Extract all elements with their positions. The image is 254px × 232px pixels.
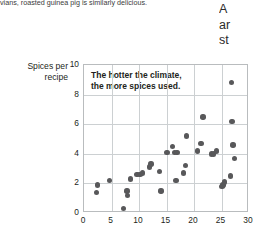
data-point <box>164 150 169 155</box>
gridline-horizontal <box>84 95 247 96</box>
data-point <box>200 114 205 119</box>
data-point <box>198 141 203 146</box>
y-axis-tick-label: 4 <box>57 148 79 158</box>
gridline-vertical <box>139 65 140 211</box>
plot-area: The hotter the climate, the more spices … <box>83 64 248 212</box>
data-point <box>174 150 179 155</box>
page-root: vians, roasted guinea pig is similarly d… <box>0 0 254 232</box>
data-point <box>157 169 162 174</box>
data-point <box>125 193 130 198</box>
data-point <box>107 178 112 183</box>
data-point <box>121 206 126 211</box>
y-axis-tick-label: 2 <box>57 177 79 187</box>
body-text-column-right: A ar st <box>219 2 254 49</box>
data-point <box>222 179 227 184</box>
data-point <box>214 148 219 153</box>
data-point <box>95 182 100 187</box>
data-point <box>148 161 153 166</box>
gridline-horizontal <box>84 124 247 125</box>
y-axis-tick-label: 6 <box>57 118 79 128</box>
data-point <box>183 163 188 168</box>
right-column-line-3: st <box>219 33 254 49</box>
annotation-line-1: The hotter the climate, <box>91 70 215 81</box>
right-column-line-1: A <box>219 2 254 18</box>
y-axis-tick-label: 10 <box>57 59 79 69</box>
chart-annotation: The hotter the climate, the more spices … <box>89 69 217 92</box>
data-point <box>94 190 99 195</box>
data-point <box>170 144 175 149</box>
data-point <box>181 170 186 175</box>
y-axis-tick-label: 8 <box>57 89 79 99</box>
data-point <box>228 173 233 178</box>
data-point <box>229 119 234 124</box>
data-point <box>232 156 237 161</box>
y-axis-ticks: 0246810 <box>55 64 79 212</box>
gridline-vertical <box>194 65 195 211</box>
body-text-fragment-left: vians, roasted guinea pig is similarly d… <box>0 0 192 7</box>
data-point <box>184 133 189 138</box>
x-axis-tick-label: 5 <box>98 215 124 225</box>
gridline-vertical <box>167 65 168 211</box>
x-axis-tick-label: 20 <box>180 215 206 225</box>
annotation-line-2: the more spices used. <box>91 81 215 92</box>
data-point <box>229 80 234 85</box>
x-axis-tick-label: 25 <box>208 215 234 225</box>
gridline-vertical <box>112 65 113 211</box>
gridline-vertical <box>222 65 223 211</box>
right-column-line-2: ar <box>219 18 254 34</box>
x-axis-tick-label: 0 <box>70 215 96 225</box>
data-point <box>128 176 133 181</box>
x-axis-tick-label: 30 <box>235 215 254 225</box>
x-axis-ticks: 051015202530 <box>83 215 248 229</box>
x-axis-tick-label: 15 <box>153 215 179 225</box>
data-point <box>173 178 178 183</box>
x-axis-tick-label: 10 <box>125 215 151 225</box>
scatter-chart: Spices per recipe 0246810 The hotter the… <box>0 55 254 232</box>
data-point <box>140 170 145 175</box>
data-point <box>230 142 235 147</box>
data-point <box>195 148 200 153</box>
data-point <box>158 188 163 193</box>
